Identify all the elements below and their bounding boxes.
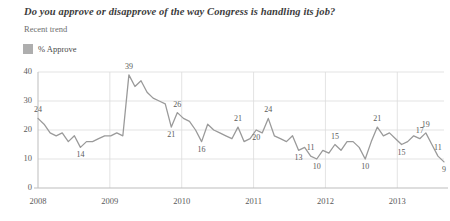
- data-point-label: 20: [246, 133, 266, 142]
- chart-gridlines: [38, 72, 444, 188]
- y-tick-label: 30: [10, 95, 32, 105]
- y-tick-label: 0: [10, 182, 32, 192]
- data-point-label: 39: [119, 62, 139, 71]
- data-point-label: 21: [161, 130, 181, 139]
- data-point-label: 13: [289, 153, 309, 162]
- y-tick-label: 20: [10, 124, 32, 134]
- data-point-label: 19: [416, 120, 436, 129]
- x-tick-label: 2013: [377, 196, 417, 206]
- x-tick-label: 2010: [162, 196, 202, 206]
- x-tick-label: 2012: [305, 196, 345, 206]
- data-point-label: 24: [258, 105, 278, 114]
- data-point-label: 26: [167, 100, 187, 109]
- y-tick-label: 40: [10, 66, 32, 76]
- data-point-label: 10: [307, 162, 327, 171]
- line-chart-plot: [0, 0, 450, 221]
- x-tick-label: 2009: [90, 196, 130, 206]
- data-point-label: 24: [28, 105, 48, 114]
- chart-container: Do you approve or disapprove of the way …: [0, 0, 450, 221]
- data-point-label: 10: [355, 162, 375, 171]
- data-point-label: 15: [392, 148, 412, 157]
- data-point-label: 11: [301, 143, 321, 152]
- data-point-label: 21: [228, 114, 248, 123]
- x-tick-label: 2008: [18, 196, 58, 206]
- data-point-label: 21: [367, 114, 387, 123]
- data-point-label: 9: [434, 165, 450, 174]
- x-tick-label: 2011: [234, 196, 274, 206]
- data-point-label: 11: [428, 143, 448, 152]
- data-point-label: 15: [325, 132, 345, 141]
- data-point-label: 14: [70, 150, 90, 159]
- data-point-label: 16: [192, 145, 212, 154]
- y-tick-label: 10: [10, 153, 32, 163]
